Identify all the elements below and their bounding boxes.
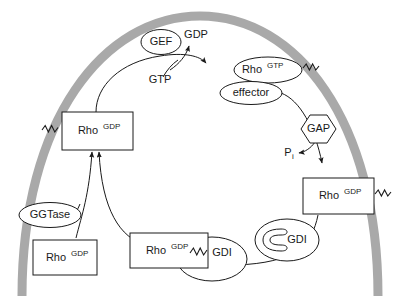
rho-gdp-complex-sup-label: GDP xyxy=(171,242,188,251)
ggtase-label: GGTase xyxy=(30,208,70,220)
arrow-prenylation-delivery xyxy=(76,152,92,238)
rho-gdp-left-sup-label: GDP xyxy=(103,122,120,131)
arrow-gdi-recycling xyxy=(99,152,146,245)
node-gef: GEF xyxy=(141,30,181,55)
arrow-pi-release xyxy=(299,142,315,153)
rho-gtp-sup-label: GTP xyxy=(267,61,283,70)
rho-gdp-nascent-base-label: Rho xyxy=(46,251,66,263)
gap-label: GAP xyxy=(307,122,330,134)
rho-gdp-right-sup-label: GDP xyxy=(344,187,361,196)
node-rho-gdp-gdi-complex: Rho GDP GDI xyxy=(130,233,247,281)
node-rho-gdp-nascent: Rho GDP xyxy=(33,240,97,275)
rho-gdp-nascent-sup-label: GDP xyxy=(71,249,88,258)
phosphate-base-label: P xyxy=(284,146,291,158)
effector-label: effector xyxy=(233,86,270,98)
rho-gtpase-cycle-diagram: GEF GDP GTP Rho GTP effector GAP P i Rho… xyxy=(0,0,402,299)
gdp-released-label: GDP xyxy=(184,28,208,40)
rho-gdp-complex-box xyxy=(130,233,208,268)
diagram-canvas: GEF GDP GTP Rho GTP effector GAP P i Rho… xyxy=(0,0,402,299)
rho-gdp-right-base-label: Rho xyxy=(319,189,339,201)
rho-gdp-left-base-label: Rho xyxy=(78,124,98,136)
prenyl-right-icon xyxy=(375,190,391,196)
phosphate-sub-label: i xyxy=(292,152,294,161)
gtp-label: GTP xyxy=(149,73,172,85)
gdi-free-label: GDI xyxy=(287,233,307,245)
phosphate-label-group: P i xyxy=(284,146,294,161)
rho-gtp-base-label: Rho xyxy=(242,63,262,75)
gdi-bound-label: GDI xyxy=(212,246,232,258)
node-ggtase: GGTase xyxy=(19,203,81,228)
gef-label: GEF xyxy=(150,35,173,47)
rho-gdp-complex-base-label: Rho xyxy=(146,244,166,256)
node-effector: effector xyxy=(220,82,282,105)
node-gdi-free: GDI xyxy=(255,219,319,261)
node-gap: GAP xyxy=(301,115,336,143)
node-rho-gdp-membrane-right: Rho GDP xyxy=(303,178,391,214)
